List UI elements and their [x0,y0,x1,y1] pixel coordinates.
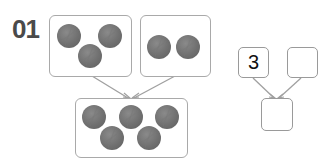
right-group-box [140,15,211,77]
total-group-box [75,98,188,158]
bond-whole-input[interactable] [261,98,293,131]
problem-number: 01 [12,14,39,45]
bond-right-part-input[interactable] [287,47,318,78]
ball-icon [155,105,179,129]
left-group-box [49,15,132,77]
ball-icon [82,105,106,129]
ball-icon [147,35,171,59]
ball-icon [137,126,161,150]
ball-icon [176,35,200,59]
ball-icon [98,24,122,48]
bond-left-part: 3 [238,47,269,78]
ball-icon [78,44,102,68]
ball-icon [100,126,124,150]
ball-icon [57,24,81,48]
ball-icon [119,105,143,129]
